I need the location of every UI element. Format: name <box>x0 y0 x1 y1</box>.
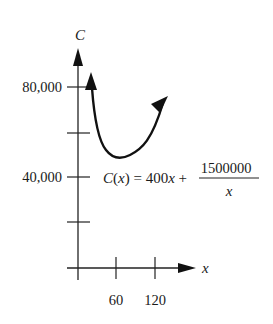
curve-arrow-right-icon <box>151 96 168 113</box>
x-tick-label-120: 120 <box>144 292 166 308</box>
y-axis: C 80,000 40,000 <box>22 27 90 280</box>
x-axis-label: x <box>201 260 209 276</box>
curve-arrow-left-icon <box>85 72 97 90</box>
x-tick-label-60: 60 <box>109 292 124 308</box>
x-axis: x 60 120 <box>67 257 209 308</box>
fraction-numerator: 1500000 <box>201 160 252 176</box>
y-tick-label-80000: 80,000 <box>22 79 62 95</box>
y-axis-label: C <box>75 27 86 43</box>
cost-curve <box>92 88 163 158</box>
fraction-denominator: x <box>225 183 233 199</box>
cost-function-chart: C 80,000 40,000 x 60 120 C(x) = 400x + 1… <box>0 0 273 324</box>
function-label: C(x) = 400x + 1500000 x <box>103 160 259 199</box>
y-axis-arrow-icon <box>73 48 83 66</box>
svg-text:C(x) = 400x +: C(x) = 400x + <box>103 170 187 187</box>
x-axis-arrow-icon <box>178 263 196 273</box>
y-tick-label-40000: 40,000 <box>22 169 62 185</box>
